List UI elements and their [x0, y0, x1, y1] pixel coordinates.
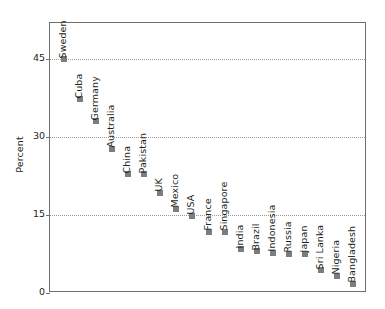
gridline	[50, 137, 365, 138]
data-point-label: Indonesia	[266, 205, 276, 252]
data-point-label: Nigeria	[330, 240, 340, 275]
plot-area: SwedenCubaGermanyAustraliaChinaPakistanU…	[49, 22, 366, 292]
axis-tick	[46, 293, 50, 294]
y-tick-label: 30	[24, 131, 45, 141]
data-point-label: Sri Lanka	[314, 224, 324, 269]
data-point-label: Japan	[298, 226, 308, 253]
data-point-label: Australia	[106, 105, 116, 148]
data-point-label: India	[234, 225, 244, 249]
y-axis-title-text: Percent	[14, 136, 25, 172]
data-point-label: Sweden	[58, 20, 68, 58]
y-tick-label: 0	[24, 287, 45, 297]
data-point-label: Russia	[282, 221, 292, 252]
data-point-label: Singapore	[218, 182, 228, 231]
y-axis-tick-labels: 0153045	[24, 0, 45, 309]
gridline	[50, 59, 365, 60]
data-point-label: France	[202, 199, 212, 231]
data-point-label: Cuba	[74, 73, 84, 98]
data-point-label: Mexico	[170, 174, 180, 208]
data-point-label: USA	[186, 195, 196, 215]
data-point-label: Pakistan	[138, 133, 148, 174]
data-point-label: China	[122, 145, 132, 173]
axis-tick	[46, 137, 50, 138]
axis-tick	[46, 59, 50, 60]
data-point-label: Germany	[90, 76, 100, 120]
axis-tick	[46, 215, 50, 216]
y-tick-label: 15	[24, 209, 45, 219]
data-point-label: Brazil	[250, 223, 260, 250]
y-tick-label: 45	[24, 53, 45, 63]
data-point-label: UK	[154, 178, 164, 191]
data-point-label: Bangladesh	[346, 226, 356, 283]
scatter-chart: Percent 0153045 SwedenCubaGermanyAustral…	[0, 0, 385, 309]
